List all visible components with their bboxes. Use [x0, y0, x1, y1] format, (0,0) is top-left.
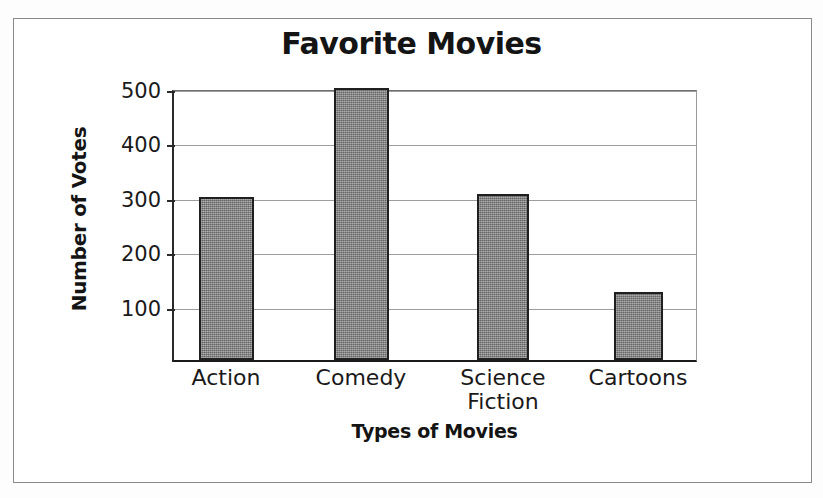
gridline-500: 500 [174, 91, 696, 92]
x-tick-label-action: Action [151, 366, 301, 390]
y-tick-label-400: 400 [91, 135, 161, 156]
x-tick-label-comedy: Comedy [286, 366, 436, 390]
gridline-400: 400 [174, 145, 696, 146]
x-axis-title: Types of Movies [172, 420, 697, 442]
x-tick-label-cartoons: Cartoons [563, 366, 713, 390]
tick-mark-400 [167, 145, 175, 147]
plot-area: 500 400 300 200 100 Action Comedy Scienc… [172, 90, 697, 362]
y-tick-label-300: 300 [91, 190, 161, 211]
tick-mark-100 [167, 309, 175, 311]
bar-cartoons[interactable] [614, 292, 663, 360]
figure-page: Favorite Movies Number of Votes 500 400 … [0, 0, 823, 498]
x-tick-label-science-fiction: Science Fiction [428, 366, 578, 414]
tick-mark-200 [167, 254, 175, 256]
chart-title: Favorite Movies [0, 26, 823, 61]
y-tick-label-100: 100 [91, 299, 161, 320]
bar-science-fiction[interactable] [477, 194, 529, 360]
bar-action[interactable] [199, 197, 254, 360]
y-axis-title: Number of Votes [67, 99, 91, 339]
y-tick-label-200: 200 [91, 244, 161, 265]
bar-comedy[interactable] [334, 88, 389, 360]
y-tick-label-500: 500 [91, 81, 161, 102]
tick-mark-300 [167, 200, 175, 202]
tick-mark-500 [167, 91, 175, 93]
